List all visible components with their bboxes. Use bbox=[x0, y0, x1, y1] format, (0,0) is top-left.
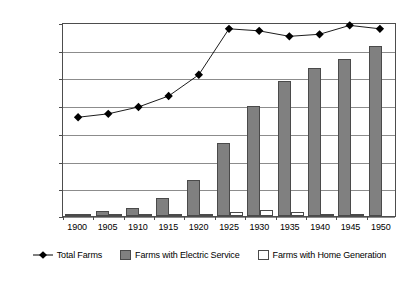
x-axis-tick-mark bbox=[336, 216, 337, 220]
line-series-total-farms bbox=[63, 24, 395, 216]
gridline bbox=[63, 217, 395, 218]
x-axis-tick-mark bbox=[154, 216, 155, 220]
legend-item-home-generation: Farms with Home Generation bbox=[258, 250, 387, 260]
data-point-marker-diamond bbox=[346, 21, 354, 29]
data-point-marker-diamond bbox=[74, 113, 82, 121]
x-axis-tick-mark bbox=[306, 216, 307, 220]
legend-label-electric-service: Farms with Electric Service bbox=[135, 250, 239, 260]
data-point-marker-diamond bbox=[104, 110, 112, 118]
data-point-marker-diamond bbox=[164, 92, 172, 100]
data-point-marker-diamond bbox=[255, 27, 263, 35]
x-axis-tick-mark bbox=[184, 216, 185, 220]
x-axis-tick-mark bbox=[276, 216, 277, 220]
x-axis-tick-mark bbox=[93, 216, 94, 220]
data-point-marker-diamond bbox=[134, 103, 142, 111]
data-point-marker-diamond bbox=[195, 71, 203, 79]
legend-item-electric-service: Farms with Electric Service bbox=[120, 250, 239, 260]
data-point-marker-diamond bbox=[225, 25, 233, 33]
x-axis-tick-label: 1950 bbox=[361, 222, 401, 232]
x-axis-tick-mark bbox=[245, 216, 246, 220]
white-swatch-icon bbox=[258, 250, 269, 260]
data-point-marker-diamond bbox=[315, 30, 323, 38]
x-axis-tick-mark bbox=[124, 216, 125, 220]
legend-item-total-farms: Total Farms bbox=[33, 250, 102, 260]
data-point-marker-diamond bbox=[376, 25, 384, 33]
x-axis-tick-mark bbox=[215, 216, 216, 220]
legend-label-total-farms: Total Farms bbox=[57, 250, 102, 260]
x-axis-tick-mark bbox=[63, 216, 64, 220]
data-point-marker-diamond bbox=[285, 32, 293, 40]
diamond-line-icon bbox=[33, 250, 53, 260]
chart-legend: Total Farms Farms with Electric Service … bbox=[0, 250, 419, 260]
line-path-total-farms bbox=[78, 25, 380, 117]
legend-label-home-generation: Farms with Home Generation bbox=[273, 250, 387, 260]
chart-container: 020,00040,00060,00080,000100,000120,0001… bbox=[0, 0, 419, 284]
gray-swatch-icon bbox=[120, 250, 131, 260]
x-axis-tick-mark bbox=[367, 216, 368, 220]
plot-area bbox=[62, 23, 396, 217]
